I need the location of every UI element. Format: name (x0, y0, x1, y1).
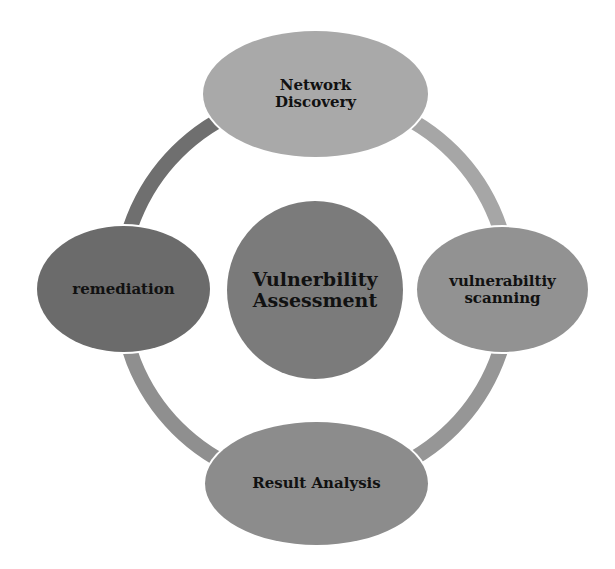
node-label: Network Discovery (275, 77, 356, 111)
node-label: vulnerabiltiy scanning (449, 273, 556, 307)
label-line-1: vulnerabiltiy (449, 273, 556, 290)
vulnerability-assessment-cycle-diagram: Network Discovery vulnerabiltiy scanning… (0, 0, 615, 569)
node-label: remediation (72, 281, 174, 298)
label-line-2: scanning (449, 290, 556, 307)
label-line-2: Discovery (275, 94, 356, 111)
label-line-2: Assessment (252, 290, 377, 311)
node-network-discovery: Network Discovery (203, 31, 428, 157)
node-result-analysis: Result Analysis (205, 422, 428, 545)
label-line-1: Vulnerbility (252, 269, 377, 290)
center-label: Vulnerbility Assessment (252, 269, 377, 312)
node-vulnerability-scanning: vulnerabiltiy scanning (417, 227, 588, 352)
label-line-1: Network (275, 77, 356, 94)
node-center-vulnerability-assessment: Vulnerbility Assessment (227, 201, 403, 379)
node-label: Result Analysis (252, 475, 380, 492)
node-remediation: remediation (37, 226, 210, 352)
